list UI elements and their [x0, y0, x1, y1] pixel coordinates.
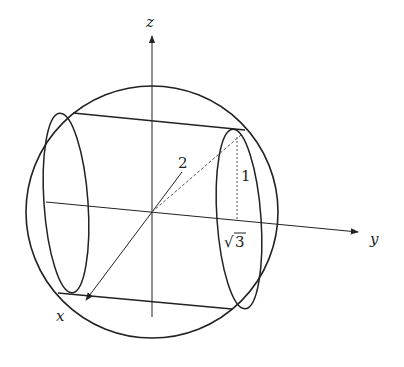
y-axis [46, 202, 358, 232]
z-axis-label: z [145, 13, 154, 31]
cylinder-bottom-edge [58, 293, 232, 309]
x-axis-label: x [56, 307, 65, 325]
sqrt-radicand: 3 [235, 233, 245, 251]
radius-label: 2 [178, 154, 188, 172]
sphere-cylinder-diagram: z y x 2 1 √ 3 [0, 0, 404, 367]
cylinder-top-edge [73, 113, 245, 130]
sqrt-symbol: √ [224, 233, 234, 251]
sqrt3-label: √ 3 [224, 233, 246, 251]
cylinder-left-cap [38, 112, 94, 295]
y-axis-label: y [369, 230, 379, 248]
x-axis [86, 172, 182, 300]
half-height-label: 1 [241, 167, 251, 185]
sphere-radius-dashed [152, 135, 241, 212]
